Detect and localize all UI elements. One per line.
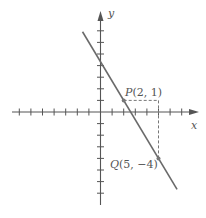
point-q-letter: Q bbox=[110, 158, 119, 171]
x-axis-label: x bbox=[191, 119, 198, 132]
x-axis-arrow-icon bbox=[189, 109, 199, 115]
point-p bbox=[122, 98, 126, 102]
axes bbox=[12, 11, 199, 205]
y-axis-label: y bbox=[107, 7, 115, 20]
point-p-label: P(2, 1) bbox=[124, 86, 162, 99]
point-p-coords: (2, 1) bbox=[132, 86, 162, 99]
y-axis-arrow-icon bbox=[98, 11, 104, 21]
point-q-coords: (5, −4) bbox=[119, 158, 158, 171]
point-q-label: Q(5, −4) bbox=[110, 158, 158, 171]
coordinate-graph: y x P(2, 1) Q(5, −4) bbox=[0, 0, 206, 218]
